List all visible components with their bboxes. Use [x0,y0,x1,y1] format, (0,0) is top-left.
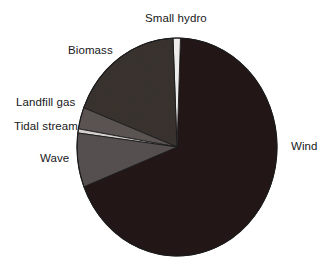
pie-label-landfill-gas: Landfill gas [16,96,75,109]
pie-slices [77,38,277,256]
pie-label-wind: Wind [291,140,318,153]
pie-chart: Small hydro Biomass Landfill gas Tidal s… [0,0,332,266]
pie-chart-canvas [0,0,332,266]
pie-label-small-hydro: Small hydro [145,12,207,25]
pie-label-wave: Wave [40,152,69,165]
pie-label-tidal-stream: Tidal stream [14,120,78,133]
pie-label-biomass: Biomass [68,44,113,57]
